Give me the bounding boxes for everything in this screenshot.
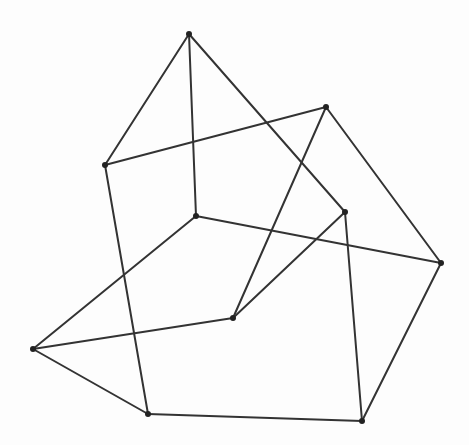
vertex-J (359, 418, 365, 424)
edge-H-I (33, 349, 148, 414)
vertex-E (342, 209, 348, 215)
edge-E-G (233, 212, 345, 318)
vertex-C (323, 104, 329, 110)
graph-canvas (0, 0, 469, 445)
vertex-A (186, 31, 192, 37)
vertex-B (102, 162, 108, 168)
edge-I-J (148, 414, 362, 421)
edges-layer (33, 34, 441, 421)
edge-D-H (33, 216, 196, 349)
edge-E-J (345, 212, 362, 421)
vertex-G (230, 315, 236, 321)
vertex-H (30, 346, 36, 352)
edge-C-F (326, 107, 441, 263)
edge-D-F (196, 216, 441, 263)
edge-F-J (362, 263, 441, 421)
edge-A-D (189, 34, 196, 216)
edge-B-I (105, 165, 148, 414)
vertex-I (145, 411, 151, 417)
graph-diagram (0, 0, 469, 445)
edge-B-C (105, 107, 326, 165)
vertex-F (438, 260, 444, 266)
vertex-D (193, 213, 199, 219)
